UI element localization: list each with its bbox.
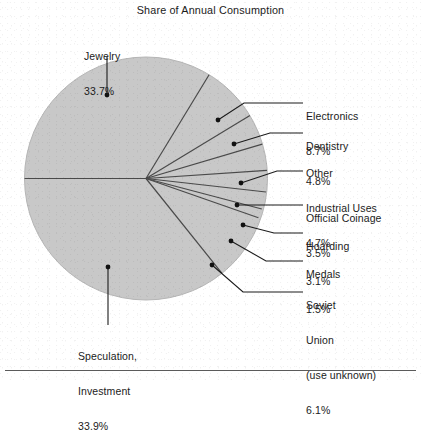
label-soviet: Soviet Union (use unknown) 6.1% bbox=[306, 277, 376, 434]
dot-hoarding bbox=[241, 223, 246, 228]
label-speculation-name-line1: Speculation, bbox=[78, 351, 137, 363]
label-soviet-value: 6.1% bbox=[306, 405, 376, 417]
dot-speculation bbox=[106, 265, 111, 270]
label-speculation-name-line2: Investment bbox=[78, 386, 137, 398]
label-jewelry-name: Jewelry bbox=[84, 51, 120, 63]
dot-official-coinage bbox=[235, 203, 240, 208]
dot-other-industrial bbox=[239, 181, 244, 186]
label-jewelry-value: 33.7% bbox=[84, 86, 120, 98]
dot-soviet bbox=[210, 263, 215, 268]
dot-dentistry bbox=[232, 142, 237, 147]
label-speculation: Speculation, Investment 33.9% bbox=[78, 328, 137, 434]
label-jewelry: Jewelry 33.7% bbox=[84, 28, 120, 121]
footer-divider bbox=[5, 370, 416, 371]
label-soviet-name-line1: Soviet bbox=[306, 300, 376, 312]
label-other-industrial-name-line1: Other bbox=[306, 168, 377, 180]
footer-note bbox=[78, 373, 418, 380]
label-soviet-name-line2: Union bbox=[306, 335, 376, 347]
dot-electronics bbox=[216, 118, 221, 123]
dot-medals bbox=[229, 239, 234, 244]
label-speculation-value: 33.9% bbox=[78, 421, 137, 433]
